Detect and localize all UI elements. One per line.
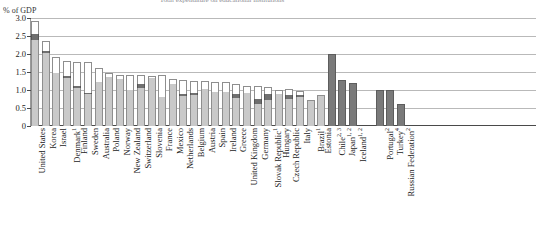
bar[interactable] [317, 95, 325, 126]
x-axis-label: Iceland1, 2 [356, 128, 367, 162]
bar-segment-primary [397, 104, 405, 126]
bar-segment-primary [95, 82, 103, 126]
bar-segment-primary [264, 100, 272, 126]
bar[interactable] [31, 21, 39, 126]
x-axis-label: Ireland [229, 128, 238, 152]
bar[interactable] [73, 62, 81, 126]
bar-segment-top [42, 41, 50, 51]
bar[interactable] [137, 75, 145, 126]
bar-segment-primary [317, 95, 325, 126]
y-tick-label: 1.5 [15, 68, 26, 77]
bar-segment-top [126, 75, 134, 90]
bar-segment-primary [275, 94, 283, 126]
bar[interactable] [116, 75, 124, 126]
x-axis-label: Australia [102, 128, 111, 159]
bar-segment-primary [349, 83, 357, 126]
plot-area: 00.51.01.52.02.53.0 [31, 18, 536, 126]
bar-segment-top [211, 82, 219, 92]
y-tick-label: 0 [22, 122, 26, 131]
bar-segment-top [52, 57, 60, 73]
bar[interactable] [95, 68, 103, 126]
bar[interactable] [275, 90, 283, 126]
bar[interactable] [307, 100, 315, 126]
x-axis-label: Poland [112, 128, 121, 152]
x-axis-label: Netherlands [186, 128, 195, 169]
bar[interactable] [179, 80, 187, 126]
bar-segment-primary [63, 78, 71, 126]
bar[interactable] [52, 57, 60, 126]
x-axis-label: France [165, 128, 174, 151]
bar[interactable] [222, 82, 230, 126]
bar-segment-primary [179, 96, 187, 126]
bar[interactable] [328, 54, 336, 126]
gridline [31, 54, 536, 55]
bar-segment-primary [201, 89, 209, 126]
x-axis-label: Austria [208, 128, 217, 153]
bar[interactable] [254, 86, 262, 126]
x-axis-category-labels: United StatesKoreaIsraelDenmark1FinlandS… [31, 128, 536, 232]
bar[interactable] [42, 41, 50, 126]
bar[interactable] [386, 90, 394, 126]
x-axis-label: Israel [59, 128, 68, 147]
x-axis-label: Finland [80, 128, 89, 154]
bar-segment-primary [42, 53, 50, 126]
x-axis-label: Mexico [176, 128, 185, 154]
chart-figure: Total expenditure on educational institu… [0, 0, 544, 234]
x-axis-label: New Zealand [133, 128, 142, 174]
bar[interactable] [148, 76, 156, 126]
bar[interactable] [338, 80, 346, 126]
bar-segment-primary [307, 100, 315, 126]
gridline [31, 18, 536, 19]
bar[interactable] [397, 104, 405, 126]
bar-segment-top [243, 86, 251, 93]
bar[interactable] [63, 60, 71, 126]
bar-segment-primary [31, 40, 39, 126]
bar-segment-primary [137, 88, 145, 126]
bar-segment-primary [338, 80, 346, 126]
bar-segment-top [158, 75, 166, 97]
bar[interactable] [264, 87, 272, 126]
bar[interactable] [376, 90, 384, 126]
x-axis-label: Sweden [91, 128, 100, 155]
x-axis-label: Germany [261, 128, 270, 160]
x-axis-label: Czech Republic [292, 128, 301, 182]
x-axis-label: Greece [239, 128, 248, 152]
gridline [31, 36, 536, 37]
x-axis-label: Slovenia [155, 128, 164, 158]
bar[interactable] [105, 73, 113, 126]
bar[interactable] [349, 83, 357, 126]
bar[interactable] [243, 86, 251, 126]
bar[interactable] [126, 75, 134, 126]
chart-title: Total expenditure on educational institu… [72, 0, 372, 3]
bar-segment-primary [158, 97, 166, 126]
y-tick-label: 3.0 [15, 14, 26, 23]
bar-segment-primary [285, 99, 293, 126]
bar-segment-primary [254, 104, 262, 126]
bar[interactable] [190, 81, 198, 126]
bar-segment-primary [52, 73, 60, 126]
bar[interactable] [84, 62, 92, 126]
bar[interactable] [296, 91, 304, 126]
bar-segment-primary [148, 78, 156, 126]
bar[interactable] [201, 81, 209, 126]
y-tick-mark [27, 126, 31, 127]
x-axis-label: Switzerland [144, 128, 153, 169]
y-tick-label: 1.0 [15, 86, 26, 95]
y-tick-label: 0.5 [15, 104, 26, 113]
bar[interactable] [211, 82, 219, 126]
bar-segment-top [201, 81, 209, 88]
y-tick-label: 2.0 [15, 50, 26, 59]
bar[interactable] [285, 89, 293, 126]
bar-segment-primary [190, 95, 198, 126]
bar-segment-top [254, 86, 262, 100]
bar-segment-primary [211, 92, 219, 126]
bar-segment-primary [232, 98, 240, 126]
bar[interactable] [158, 75, 166, 126]
bar-segment-top [190, 81, 198, 94]
bar-segment-top [73, 62, 81, 86]
bar-segment-top [264, 87, 272, 94]
bar-segment-top [95, 68, 103, 82]
bar[interactable] [169, 79, 177, 126]
bar[interactable] [232, 84, 240, 126]
x-axis-label: Italy [303, 128, 312, 144]
